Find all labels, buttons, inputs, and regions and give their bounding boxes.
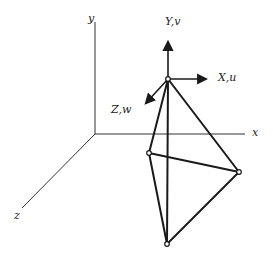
edge-top-right: [168, 79, 239, 172]
local-axes: [146, 42, 206, 103]
tetrahedron-edges: [149, 79, 239, 244]
diagram-canvas: [0, 0, 273, 258]
edge-left-bottom: [149, 153, 167, 244]
global-x-label: x: [252, 127, 258, 138]
node-right: [237, 170, 242, 175]
global-z-label: z: [14, 210, 20, 221]
local-x-label: X,u: [218, 72, 236, 83]
global-z-axis: [22, 134, 95, 208]
edge-top-bottom: [167, 79, 168, 244]
local-y-label: Y,v: [165, 16, 181, 27]
node-bottom: [165, 242, 170, 247]
node-top: [166, 77, 171, 82]
global-y-label: y: [88, 13, 94, 24]
global-axes: [22, 22, 245, 208]
local-z-label: Z,w: [111, 104, 131, 115]
edge-right-bottom: [167, 172, 239, 244]
node-left: [147, 151, 152, 156]
